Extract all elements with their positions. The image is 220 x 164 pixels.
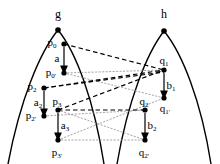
arrow-label-b2: b2 — [148, 120, 157, 131]
point-p0 — [61, 41, 66, 46]
arrow-label-a2: a2 — [34, 97, 42, 108]
point-label-p0-prime: p0' — [46, 67, 56, 78]
arrow-label-a: a — [55, 53, 60, 64]
matching-diagram: g h p0 p0' p2 p2' p3 p3' q1 q1' q2 q2' a… — [0, 0, 220, 164]
arch-h-right-curve — [164, 31, 211, 164]
point-label-p2: p2 — [28, 81, 37, 92]
arch-g-right-curve — [58, 30, 104, 164]
point-apex-g — [55, 27, 61, 33]
point-label-q2: q2 — [140, 96, 149, 107]
curve-label-g: g — [55, 8, 61, 20]
dotted-link-p3-q2p — [58, 110, 145, 140]
point-q1 — [161, 67, 166, 72]
point-label-p3: p3 — [53, 96, 62, 107]
point-q2-prime — [142, 137, 147, 142]
point-label-q1-prime: q1' — [160, 103, 170, 114]
point-label-p2-prime: p2' — [26, 110, 36, 121]
arrow-label-a3: a3 — [61, 120, 69, 131]
point-p3-prime — [55, 137, 60, 142]
dotted-link-p0p-q1p — [64, 73, 164, 98]
point-p2 — [41, 85, 46, 90]
point-p0-prime — [61, 70, 66, 75]
curve-label-h: h — [161, 8, 167, 20]
point-p2-prime — [41, 113, 46, 118]
point-label-q1: q1 — [160, 55, 169, 66]
point-q1-prime — [161, 95, 166, 100]
point-label-p3-prime: p3' — [52, 147, 62, 158]
point-label-q2-prime: q2' — [139, 147, 149, 158]
arrow-label-b1: b1 — [167, 80, 176, 91]
point-label-p0: p0 — [48, 37, 57, 48]
point-apex-h — [161, 28, 167, 34]
